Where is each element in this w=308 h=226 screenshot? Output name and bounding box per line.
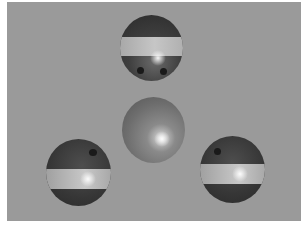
finger-hole [214,148,221,155]
finger-hole [160,68,167,75]
sphere-highlight [154,131,170,147]
sphere-highlight [150,50,166,66]
sphere-bottom-left [46,139,111,206]
sphere-bottom-right [200,136,265,203]
sphere-highlight [232,166,248,182]
finger-hole [89,149,97,156]
sphere-top [120,15,183,81]
finger-hole [137,67,144,74]
sphere-highlight [80,171,96,187]
sphere-center [122,97,185,163]
sphere-band [46,169,111,189]
render-scene [7,2,301,221]
